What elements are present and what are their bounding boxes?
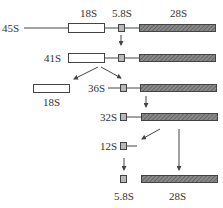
label-36s: 36S xyxy=(88,82,105,94)
arrow-to-12s xyxy=(142,129,160,139)
label-28s-product: 28S xyxy=(169,190,186,202)
rrna-processing-diagram: 18S 5.8S 28S 45S 41S 18S 36S 32S xyxy=(0,0,223,208)
label-32s: 32S xyxy=(100,111,117,123)
label-18s-product: 18S xyxy=(43,96,60,108)
segment-5-8s xyxy=(121,85,127,92)
row-36s: 36S xyxy=(88,82,217,94)
row-12s: 12S xyxy=(100,140,137,152)
label-12s: 12S xyxy=(100,140,117,152)
segment-28s xyxy=(140,25,216,32)
row-41s: 41S xyxy=(44,52,216,64)
label-41s: 41S xyxy=(44,52,61,64)
arrow-split-right xyxy=(101,67,121,78)
arrow-split-left xyxy=(74,67,98,79)
row-45s: 45S xyxy=(2,22,216,34)
segment-28s xyxy=(140,55,216,62)
row-32s: 32S xyxy=(100,111,218,123)
product-5-8s-box xyxy=(121,176,127,183)
segment-5-8s xyxy=(121,114,127,121)
segment-28s xyxy=(141,85,217,92)
product-18s-box xyxy=(34,85,70,93)
segment-5-8s xyxy=(121,143,127,150)
segment-5-8s xyxy=(119,55,125,62)
label-45s: 45S xyxy=(2,22,19,34)
label-5-8s-product: 5.8S xyxy=(114,190,134,202)
segment-5-8s xyxy=(119,25,125,32)
label-28s-header: 28S xyxy=(170,7,187,19)
label-5-8s-header: 5.8S xyxy=(112,7,132,19)
segment-18s xyxy=(69,54,105,63)
label-18s-header: 18S xyxy=(80,7,97,19)
segment-18s xyxy=(69,24,105,33)
product-28s-box xyxy=(142,176,218,183)
segment-28s xyxy=(142,114,218,121)
